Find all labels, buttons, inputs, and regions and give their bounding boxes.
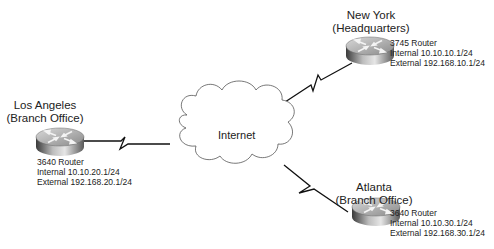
- internet-label: Internet: [218, 129, 255, 141]
- site-name: Los Angeles: [4, 99, 86, 112]
- internal-ip: Internal 10.10.20.1/24: [37, 167, 132, 177]
- external-ip: External 192.168.20.1/24: [37, 177, 132, 187]
- site-role: (Branch Office): [333, 194, 415, 207]
- internal-ip: Internal 10.10.10.1/24: [390, 48, 485, 58]
- router-model: 3745 Router: [390, 38, 485, 48]
- router-model: 3640 Router: [37, 157, 132, 167]
- external-ip: External 192.168.30.1/24: [390, 228, 485, 238]
- wan-link-los-angeles: [84, 137, 170, 149]
- internet-cloud-icon: [179, 81, 294, 163]
- site-title-atlanta: Atlanta (Branch Office): [333, 181, 415, 207]
- site-role: (Headquarters): [326, 22, 416, 35]
- router-model: 3640 Router: [390, 208, 485, 218]
- router-info-atlanta: 3640 Router Internal 10.10.30.1/24 Exter…: [390, 208, 485, 238]
- router-info-new-york: 3745 Router Internal 10.10.10.1/24 Exter…: [390, 38, 485, 68]
- external-ip: External 192.168.10.1/24: [390, 58, 485, 68]
- site-title-los-angeles: Los Angeles (Branch Office): [4, 99, 86, 125]
- site-role: (Branch Office): [4, 112, 86, 125]
- wan-link-new-york: [282, 63, 352, 104]
- site-title-new-york: New York (Headquarters): [326, 9, 416, 35]
- internal-ip: Internal 10.10.30.1/24: [390, 218, 485, 228]
- router-icon-los-angeles: [36, 128, 84, 156]
- site-name: New York: [326, 9, 416, 22]
- router-icon-new-york: [346, 37, 394, 65]
- site-name: Atlanta: [333, 181, 415, 194]
- router-info-los-angeles: 3640 Router Internal 10.10.20.1/24 Exter…: [37, 157, 132, 187]
